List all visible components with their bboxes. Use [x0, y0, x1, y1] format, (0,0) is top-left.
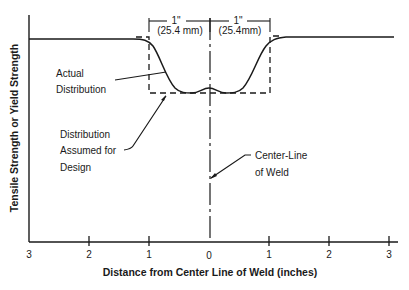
design-distribution-line	[136, 36, 282, 93]
x-axis-title: Distance from Center Line of Weld (inche…	[103, 266, 318, 278]
tick-label: 1	[146, 249, 152, 260]
tick-label: 1	[266, 249, 272, 260]
tick-label: 0	[206, 250, 212, 261]
center-label-1: Center-Line	[255, 150, 308, 161]
x-tick-labels: 3 2 1 0 1 2 3	[26, 249, 392, 261]
center-label-2: of Weld	[255, 167, 289, 178]
tick-label: 2	[86, 249, 92, 260]
actual-leader	[115, 72, 166, 80]
assumed-leader	[124, 96, 166, 150]
actual-label-1: Actual	[56, 68, 84, 79]
tick-label: 3	[26, 249, 32, 260]
center-arrowhead	[210, 173, 217, 179]
y-axis-title: Tensile Strength or Yield Strength	[8, 44, 20, 212]
dim-left-bottom: (25.4 mm)	[157, 25, 203, 36]
actual-label-2: Distribution	[56, 84, 106, 95]
weld-strength-chart: 3 2 1 0 1 2 3 Distance from Center Line …	[0, 0, 409, 290]
assumed-label-3: Design	[60, 162, 91, 173]
assumed-label-1: Distribution	[60, 129, 110, 140]
assumed-label-2: Assumed for	[60, 145, 117, 156]
tick-label: 2	[326, 249, 332, 260]
x-ticks	[89, 236, 389, 246]
dim-right-bottom: (25.4mm)	[219, 25, 262, 36]
tick-label: 3	[386, 249, 392, 260]
center-leader	[211, 155, 251, 178]
